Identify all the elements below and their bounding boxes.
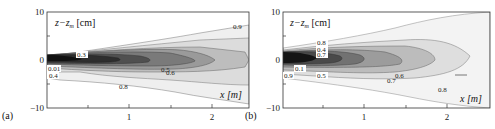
contour-label: 0.9 — [233, 23, 242, 31]
panel-b: 10 0 −10 1 2 (b) z−zm [cm] x [m] 0.8 0.4… — [245, 0, 495, 129]
panel-label-b: (b) — [245, 110, 257, 122]
contour-label: 0.8 — [119, 83, 128, 91]
xtick-2: 2 — [445, 112, 450, 122]
xlabel-b: x [m] — [459, 93, 482, 104]
contour-label: 0.6 — [166, 69, 175, 77]
xtick-1: 1 — [362, 112, 367, 122]
contour-plot-b: 10 0 −10 1 2 (b) z−zm [cm] x [m] 0.8 0.4… — [245, 0, 495, 129]
ytick-0: 0 — [276, 55, 281, 65]
ytick-10: 10 — [271, 7, 281, 17]
contour-plot-a: 10 0 −10 1 2 (a) z−zm [cm] x [m] 0.3 0.0… — [0, 0, 250, 129]
xlabel-a: x [m] — [219, 89, 242, 100]
ytick-10: 10 — [35, 7, 45, 17]
contour-label: 0.7 — [387, 77, 396, 85]
contour-label: 0.7 — [317, 51, 326, 59]
panel-label-a: (a) — [2, 110, 13, 122]
ylabel-a: z−zm [cm] — [54, 17, 95, 29]
contour-label: 0.6 — [395, 72, 404, 80]
contour-label: 0.1 — [295, 65, 304, 73]
ytick-0: 0 — [40, 55, 45, 65]
xtick-1: 1 — [127, 112, 132, 122]
contour-label: 0.8 — [438, 86, 447, 94]
contour-label: 0.9 — [284, 72, 293, 80]
xtick-2: 2 — [210, 112, 215, 122]
ytick-minus10: −10 — [266, 103, 281, 113]
panel-a: 10 0 −10 1 2 (a) z−zm [cm] x [m] 0.3 0.0… — [0, 0, 250, 129]
contour-label: 0.3 — [77, 51, 86, 59]
contour-label: 0.4 — [49, 72, 58, 80]
ytick-minus10: −10 — [30, 103, 45, 113]
contour-label: 0.5 — [317, 72, 326, 80]
ylabel-b: z−zm [cm] — [289, 17, 330, 29]
